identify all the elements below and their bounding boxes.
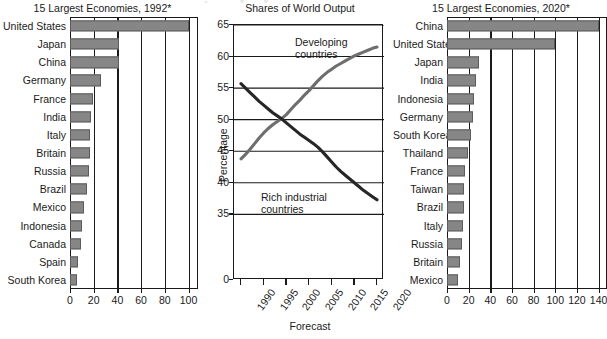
- y-tick-mark: [229, 119, 233, 120]
- bar-row: Britain: [0, 144, 198, 162]
- bar: [447, 147, 468, 158]
- bar-category-label: South Korea: [0, 274, 66, 285]
- y-tick-mark: [229, 213, 233, 214]
- y-tick-mark: [229, 182, 233, 183]
- x-tick-label: 2000: [300, 287, 322, 312]
- x-tick-label: 1990: [255, 287, 277, 312]
- x-tick-label: 2010: [346, 287, 368, 312]
- x-tick-label: 80: [528, 295, 540, 306]
- bar-category-label: Thailand: [393, 147, 443, 158]
- bar-category-label: China: [0, 57, 66, 68]
- bar-category-label: South Korea: [393, 129, 443, 140]
- x-tick-label: 0: [67, 295, 73, 306]
- y-tick-mark: [229, 87, 233, 88]
- bar: [70, 184, 87, 195]
- panel-right-bar-chart-2020: 15 Largest Economies, 2020* 020406080100…: [395, 0, 607, 339]
- bar: [447, 129, 471, 140]
- bar-row: South Korea: [395, 126, 603, 144]
- bar-category-label: Germany: [0, 75, 66, 86]
- middle-line-plot: [233, 24, 383, 279]
- bar-category-label: Japan: [393, 57, 443, 68]
- bar: [447, 238, 462, 249]
- panel-middle-line-chart: Shares of World Output Percentage Develo…: [205, 0, 395, 339]
- left-chart-title: 15 Largest Economies, 1992*: [0, 2, 205, 14]
- bar-category-label: Japan: [0, 39, 66, 50]
- bar-row: Spain: [0, 253, 198, 271]
- bar-row: Britain: [395, 253, 603, 271]
- y-tick-mark: [229, 24, 233, 25]
- bar-row: Thailand: [395, 144, 603, 162]
- bar-category-label: Britain: [393, 256, 443, 267]
- y-tick-label: 60: [209, 50, 229, 61]
- y-tick-mark: [229, 279, 233, 280]
- x-tick-label: 60: [135, 295, 147, 306]
- bar: [447, 220, 463, 231]
- bar: [447, 256, 460, 267]
- three-panel-economics-figure: 15 Largest Economies, 1992* 020406080100…: [0, 0, 607, 339]
- bar-category-label: Italy: [0, 129, 66, 140]
- bar: [447, 184, 464, 195]
- bar-row: Taiwan: [395, 180, 603, 198]
- bar: [70, 129, 90, 140]
- x-tick-label: 120: [568, 295, 586, 306]
- x-tick-mark: [376, 279, 377, 285]
- x-tick-label: 80: [159, 295, 171, 306]
- x-tick-label: 140: [590, 295, 607, 306]
- x-tick-label: 20: [463, 295, 475, 306]
- x-tick-mark: [331, 279, 332, 285]
- bar-row: Japan: [395, 53, 603, 71]
- bar: [70, 39, 119, 50]
- annotation-rich-line2: countries: [261, 203, 304, 215]
- bar-category-label: Brazil: [0, 184, 66, 195]
- x-tick-label: 40: [112, 295, 124, 306]
- bar-category-label: Germany: [393, 111, 443, 122]
- bar: [447, 20, 599, 31]
- bar-row: Indonesia: [0, 216, 198, 234]
- x-tick-label: 100: [547, 295, 565, 306]
- bar-row: United States: [0, 17, 198, 35]
- annotation-developing-line1: Developing: [295, 36, 348, 48]
- bar: [70, 166, 89, 177]
- y-tick-mark: [229, 150, 233, 151]
- bar-row: Germany: [395, 108, 603, 126]
- bar: [70, 274, 77, 285]
- y-tick-label: 0: [209, 274, 229, 285]
- bar-category-label: Mexico: [0, 202, 66, 213]
- right-bar-plot: 020406080100120140ChinaUnited StatesJapa…: [395, 17, 603, 289]
- bar: [447, 202, 464, 213]
- x-tick-label: 100: [180, 295, 198, 306]
- bar: [70, 20, 189, 31]
- bar: [70, 220, 82, 231]
- bar: [70, 238, 81, 249]
- bar-category-label: Italy: [393, 220, 443, 231]
- bar-row: Japan: [0, 35, 198, 53]
- bar-category-label: United States: [0, 21, 66, 32]
- x-tick-label: 60: [506, 295, 518, 306]
- x-tick-mark: [285, 279, 286, 285]
- bar-category-label: Taiwan: [393, 184, 443, 195]
- bar-category-label: Indonesia: [393, 93, 443, 104]
- bar: [70, 256, 78, 267]
- bar-row: United States: [395, 35, 603, 53]
- bar: [447, 39, 555, 50]
- y-tick-label: 45: [209, 145, 229, 156]
- bar-category-label: China: [393, 21, 443, 32]
- bar-category-label: India: [393, 75, 443, 86]
- bar-row: India: [395, 71, 603, 89]
- x-tick-mark: [308, 279, 309, 285]
- bar: [70, 75, 101, 86]
- middle-chart-title: Shares of World Output: [205, 2, 395, 14]
- bar-row: Indonesia: [395, 90, 603, 108]
- bar: [70, 93, 93, 104]
- bar-row: China: [0, 53, 198, 71]
- bar: [447, 111, 473, 122]
- bar-row: Germany: [0, 71, 198, 89]
- bar-category-label: Canada: [0, 238, 66, 249]
- bar-row: China: [395, 17, 603, 35]
- bar-row: Italy: [395, 216, 603, 234]
- x-tick-label: 1995: [278, 287, 300, 312]
- bar: [70, 111, 91, 122]
- bar: [70, 147, 90, 158]
- x-tick-label: 40: [484, 295, 496, 306]
- bar-row: India: [0, 108, 198, 126]
